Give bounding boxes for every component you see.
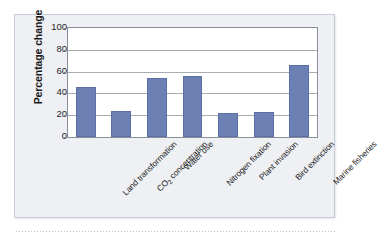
bar	[76, 87, 96, 137]
x-tick-label: Marine fisheries	[331, 139, 379, 187]
y-tick-label: 80	[33, 44, 67, 54]
bar-slot	[210, 28, 246, 137]
bar-series	[68, 28, 317, 137]
bar	[183, 76, 203, 137]
bar	[111, 111, 131, 137]
y-tick-label: 0	[33, 131, 67, 141]
bar-slot	[246, 28, 282, 137]
y-tick-label: 40	[33, 88, 67, 98]
bar-slot	[139, 28, 175, 137]
bar-slot	[68, 28, 104, 137]
bar	[254, 112, 274, 137]
y-axis-tick-labels: 020406080100	[33, 22, 67, 132]
bar-slot	[281, 28, 317, 137]
y-tick-mark	[64, 137, 68, 138]
bar-slot	[104, 28, 140, 137]
bar	[218, 113, 238, 137]
x-axis-tick-labels: Land transformationCO2 concentrationWate…	[67, 139, 318, 217]
bar	[147, 78, 167, 137]
bar-slot	[175, 28, 211, 137]
figure-card: Percentage change 020406080100 Land tran…	[14, 14, 335, 218]
y-tick-label: 60	[33, 66, 67, 76]
x-tick-label: Land transformation	[120, 139, 178, 197]
bar	[289, 65, 309, 137]
y-tick-label: 100	[33, 22, 67, 32]
y-tick-label: 20	[33, 109, 67, 119]
bottom-dotted-rule	[16, 231, 336, 232]
plot-area	[67, 27, 318, 138]
